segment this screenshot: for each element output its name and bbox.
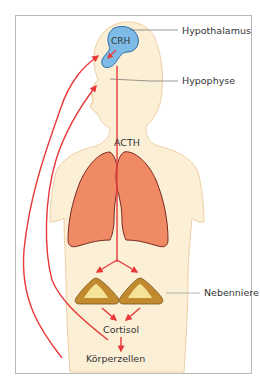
cortisol-regulation-diagram: CRH Hypothalamus Hypophyse Nebenniere AC… [0, 0, 260, 385]
hypophyse-label: Hypophyse [182, 75, 235, 86]
crh-label: CRH [111, 36, 130, 46]
acth-label: ACTH [114, 137, 140, 148]
koerperzellen-label: Körperzellen [86, 353, 145, 364]
nebenniere-label: Nebenniere [204, 287, 259, 298]
hypothalamus-label: Hypothalamus [182, 25, 251, 36]
cortisol-label: Cortisol [103, 324, 139, 335]
